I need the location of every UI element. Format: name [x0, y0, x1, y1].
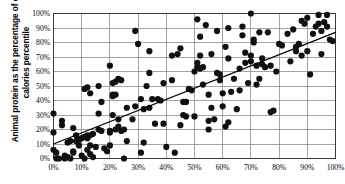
data-point	[107, 129, 113, 135]
x-tick-label: 0%	[48, 163, 59, 172]
data-point	[146, 48, 152, 54]
data-point	[160, 80, 166, 86]
data-point	[81, 155, 87, 161]
data-point	[183, 99, 189, 105]
data-point	[87, 90, 93, 96]
y-tick-label: 20%	[36, 125, 51, 134]
data-point	[118, 77, 124, 83]
data-point	[211, 116, 217, 122]
data-point	[242, 50, 248, 56]
data-point	[177, 122, 183, 128]
data-point	[248, 10, 254, 16]
data-point	[76, 142, 82, 148]
data-point	[129, 116, 135, 122]
data-point	[93, 144, 99, 150]
data-point	[228, 89, 234, 95]
data-point	[56, 155, 62, 161]
data-point	[256, 29, 262, 35]
data-point	[53, 150, 59, 156]
data-point	[138, 150, 144, 156]
data-point	[268, 63, 274, 69]
data-point	[141, 139, 147, 145]
data-point	[138, 96, 144, 102]
data-point	[67, 155, 73, 161]
data-point	[90, 131, 96, 137]
data-point	[112, 92, 118, 98]
data-point	[214, 28, 220, 34]
data-point	[248, 58, 254, 64]
data-point	[163, 144, 169, 150]
data-point	[225, 119, 231, 125]
data-point	[290, 26, 296, 32]
x-tick-labels: 0%10%20%30%40%50%60%70%80%90%100%	[48, 163, 345, 172]
data-point	[98, 128, 104, 134]
data-point	[194, 16, 200, 22]
data-point	[124, 138, 130, 144]
data-point	[318, 28, 324, 34]
data-point	[242, 60, 248, 66]
data-point	[132, 103, 138, 109]
data-point	[310, 31, 316, 37]
data-point	[279, 42, 285, 48]
x-tick-label: 40%	[159, 163, 174, 172]
data-point	[206, 92, 212, 98]
data-point	[67, 138, 73, 144]
data-point	[251, 37, 257, 43]
data-point	[299, 52, 305, 58]
data-point	[262, 64, 268, 70]
x-tick-label: 30%	[131, 163, 146, 172]
data-point	[217, 71, 223, 77]
data-point	[169, 52, 175, 58]
data-point	[174, 51, 180, 57]
x-tick-label: 20%	[103, 163, 118, 172]
y-tick-label: 60%	[36, 67, 51, 76]
data-point	[197, 52, 203, 58]
data-point	[234, 106, 240, 112]
data-point	[70, 125, 76, 131]
data-point	[87, 142, 93, 148]
data-point	[59, 118, 65, 124]
data-point	[220, 90, 226, 96]
data-point	[206, 118, 212, 124]
data-point	[183, 113, 189, 119]
data-point	[248, 52, 254, 58]
data-point	[231, 76, 237, 82]
data-point	[200, 64, 206, 70]
scatter-chart: Animal protein as the percentage of dail…	[0, 0, 345, 184]
data-point	[124, 105, 130, 111]
y-tick-label: 80%	[36, 38, 51, 47]
data-point	[177, 45, 183, 51]
data-point	[222, 44, 228, 50]
x-tick-label: 90%	[300, 163, 315, 172]
data-point	[330, 38, 336, 44]
data-point	[90, 154, 96, 160]
data-point	[273, 68, 279, 74]
data-point	[110, 112, 116, 118]
data-point	[191, 113, 197, 119]
data-point	[307, 71, 313, 77]
data-point	[256, 76, 262, 82]
data-point	[104, 148, 110, 154]
data-point	[96, 83, 102, 89]
x-tick-label: 80%	[272, 163, 287, 172]
x-tick-label: 60%	[216, 163, 231, 172]
data-point	[315, 12, 321, 18]
data-point	[172, 150, 178, 156]
data-point	[284, 31, 290, 37]
y-tick-label: 10%	[36, 140, 51, 149]
y-tick-labels: 0%10%20%30%40%50%60%70%80%90%100%	[32, 9, 50, 163]
data-point	[304, 15, 310, 21]
data-point	[50, 129, 56, 135]
y-tick-label: 30%	[36, 111, 51, 120]
y-tick-label: 50%	[36, 82, 51, 91]
y-tick-label: 90%	[36, 24, 51, 33]
data-point	[270, 108, 276, 114]
y-tick-label: 40%	[36, 96, 51, 105]
data-point	[208, 105, 214, 111]
data-point	[225, 55, 231, 61]
x-tick-label: 100%	[327, 163, 345, 172]
data-point	[206, 126, 212, 132]
x-tick-label: 70%	[244, 163, 259, 172]
data-point	[287, 58, 293, 64]
data-point	[324, 23, 330, 29]
